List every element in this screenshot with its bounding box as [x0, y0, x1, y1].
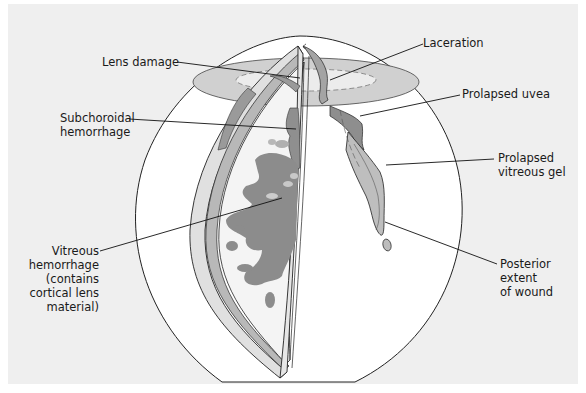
- label-posterior-line2: extent: [500, 271, 553, 285]
- label-vitreous-hemorrhage: Vitreous hemorrhage (contains cortical l…: [20, 244, 99, 314]
- figure-canvas: Lens damage Laceration Subchoroidal hemo…: [0, 0, 586, 393]
- eye-diagram: [0, 0, 586, 393]
- label-lens-damage: Lens damage: [102, 55, 179, 69]
- label-vitreous-line2: hemorrhage: [20, 258, 99, 272]
- label-prolapsed-vitreous-gel: Prolapsed vitreous gel: [498, 151, 566, 179]
- label-prolapsed-vitreous-line2: vitreous gel: [498, 165, 566, 179]
- label-vitreous-line1: Vitreous: [20, 244, 99, 258]
- label-vitreous-line3: (contains: [20, 272, 99, 286]
- label-posterior-extent-of-wound: Posterior extent of wound: [500, 257, 553, 299]
- label-vitreous-line4: cortical lens: [20, 286, 99, 300]
- label-laceration: Laceration: [423, 36, 484, 50]
- lens-disc: [193, 58, 419, 106]
- label-posterior-line1: Posterior: [500, 257, 553, 271]
- label-prolapsed-uvea: Prolapsed uvea: [462, 87, 550, 101]
- label-posterior-line3: of wound: [500, 285, 553, 299]
- label-vitreous-line5: material): [20, 300, 99, 314]
- label-subchoroidal-hemorrhage: Subchoroidal hemorrhage: [60, 111, 128, 139]
- label-subchoroidal-line1: Subchoroidal: [60, 111, 128, 125]
- label-subchoroidal-line2: hemorrhage: [60, 125, 128, 139]
- label-prolapsed-vitreous-line1: Prolapsed: [498, 151, 566, 165]
